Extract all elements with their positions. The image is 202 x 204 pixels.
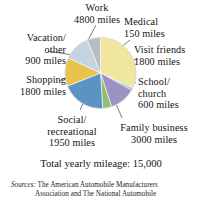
pie-label-medical-line1: Medical xyxy=(124,16,190,28)
pie-label-friends: Visit friends 1800 miles xyxy=(134,44,202,67)
pie-label-work-line1: Work xyxy=(55,2,139,14)
pie-label-school-line3: 600 miles xyxy=(138,99,200,111)
pie-label-shopping-line1: Shopping xyxy=(2,74,66,86)
pie-label-family: Family business 3000 miles xyxy=(108,122,200,145)
pie-label-vacation-line2: other xyxy=(2,44,66,56)
pie-label-shopping-line2: 1800 miles xyxy=(2,86,66,98)
pie-label-social: Social/ recreational 1950 miles xyxy=(36,114,108,149)
pie-label-medical: Medical 150 miles xyxy=(124,16,190,39)
chart-area: Work 4800 miles Vacation/ other 900 mile… xyxy=(0,0,202,158)
pie-label-family-line2: 3000 miles xyxy=(108,134,200,146)
pie-label-school: School/ church 600 miles xyxy=(138,76,200,111)
pie-label-school-line1: School/ xyxy=(138,76,200,88)
pie-label-friends-line1: Visit friends xyxy=(134,44,202,56)
pie-label-social-line3: 1950 miles xyxy=(36,137,108,149)
pie-label-vacation-line1: Vacation/ xyxy=(2,32,66,44)
total-mileage-caption: Total yearly mileage: 15,000 xyxy=(0,158,202,169)
pie-label-vacation: Vacation/ other 900 miles xyxy=(2,32,66,67)
sources-line-2: Association and The National Automobile xyxy=(11,190,201,199)
pie-label-friends-line2: 1800 miles xyxy=(134,56,202,68)
pie-label-medical-line2: 150 miles xyxy=(124,28,190,40)
pie-label-vacation-line3: 900 miles xyxy=(2,55,66,67)
pie-label-shopping: Shopping 1800 miles xyxy=(2,74,66,97)
pie-label-social-line1: Social/ xyxy=(36,114,108,126)
pie-label-social-line2: recreational xyxy=(36,126,108,138)
pie-label-school-line2: church xyxy=(138,88,200,100)
sources-note: Sources: The American Automobile Manufac… xyxy=(11,181,201,198)
pie-slices xyxy=(65,37,136,108)
pie-label-family-line1: Family business xyxy=(108,122,200,134)
sources-label: Sources: xyxy=(11,181,36,189)
sources-line-1: The American Automobile Manufacturers xyxy=(38,181,158,189)
pie-chart-figure: Work 4800 miles Vacation/ other 900 mile… xyxy=(0,0,202,204)
